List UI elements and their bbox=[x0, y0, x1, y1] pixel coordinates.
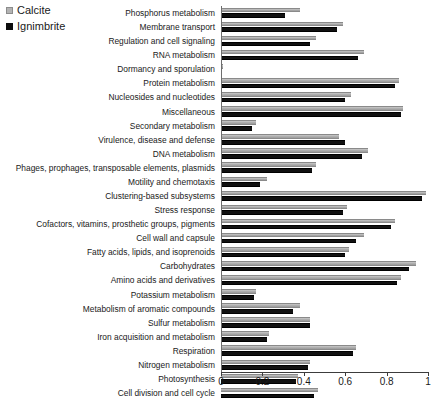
bar-ignimbrite bbox=[221, 253, 345, 258]
bar-ignimbrite bbox=[221, 394, 314, 399]
category-label: Photosynthesis bbox=[3, 372, 217, 386]
bar-group bbox=[221, 358, 433, 372]
bar-ignimbrite bbox=[221, 154, 362, 159]
category-label: Sulfur metabolism bbox=[3, 316, 217, 330]
category-label: Amino acids and derivatives bbox=[3, 273, 217, 287]
bar-group bbox=[221, 316, 433, 330]
bar-calcite bbox=[221, 388, 318, 393]
bar-group bbox=[221, 245, 433, 259]
bar-group bbox=[221, 273, 433, 287]
chart-row: Fatty acids, lipids, and isoprenoids bbox=[0, 245, 433, 259]
category-label: Virulence, disease and defense bbox=[3, 133, 217, 147]
chart-row: RNA metabolism bbox=[0, 48, 433, 62]
bar-ignimbrite bbox=[221, 182, 260, 187]
category-label: Fatty acids, lipids, and isoprenoids bbox=[3, 245, 217, 259]
x-axis-tick-label: 0.2 bbox=[247, 376, 277, 388]
chart-row: Respiration bbox=[0, 344, 433, 358]
bar-calcite bbox=[221, 317, 310, 322]
category-label: Respiration bbox=[3, 344, 217, 358]
bar-calcite bbox=[221, 8, 300, 13]
category-label: Phosphorus metabolism bbox=[3, 6, 217, 20]
chart-row: Nitrogen metabolism bbox=[0, 358, 433, 372]
category-label: RNA metabolism bbox=[3, 48, 217, 62]
bar-group bbox=[221, 302, 433, 316]
chart-row: Miscellaneous bbox=[0, 105, 433, 119]
chart-row: Iron acquisition and metabolism bbox=[0, 330, 433, 344]
y-axis-line bbox=[221, 6, 222, 372]
bar-group bbox=[221, 133, 433, 147]
category-label: Iron acquisition and metabolism bbox=[3, 330, 217, 344]
category-label: Membrane transport bbox=[3, 20, 217, 34]
bar-ignimbrite bbox=[221, 225, 391, 230]
bar-ignimbrite bbox=[221, 196, 422, 201]
category-label: Motility and chemotaxis bbox=[3, 175, 217, 189]
bar-calcite bbox=[221, 261, 416, 266]
chart-row: Phosphorus metabolism bbox=[0, 6, 433, 20]
category-label: Secondary metabolism bbox=[3, 119, 217, 133]
bar-ignimbrite bbox=[221, 351, 353, 356]
bar-calcite bbox=[221, 177, 267, 182]
bar-group bbox=[221, 90, 433, 104]
bar-calcite bbox=[221, 345, 356, 350]
plot-area: Phosphorus metabolismMembrane transportR… bbox=[0, 6, 433, 372]
chart-row: Regulation and cell signaling bbox=[0, 34, 433, 48]
chart-row: Protein metabolism bbox=[0, 76, 433, 90]
chart-row: Amino acids and derivatives bbox=[0, 273, 433, 287]
x-axis-tick-label: 0.8 bbox=[372, 376, 402, 388]
category-label: Carbohydrates bbox=[3, 259, 217, 273]
bar-calcite bbox=[221, 247, 349, 252]
x-axis-tick-label: 0 bbox=[206, 376, 236, 388]
bar-ignimbrite bbox=[221, 126, 252, 131]
bar-calcite bbox=[221, 120, 256, 125]
bar-ignimbrite bbox=[221, 210, 343, 215]
category-label: Stress response bbox=[3, 203, 217, 217]
category-label: Cell division and cell cycle bbox=[3, 386, 217, 400]
subsystem-abundance-bar-chart: Calcite Ignimbrite Phosphorus metabolism… bbox=[0, 0, 433, 400]
bar-ignimbrite bbox=[221, 295, 254, 300]
bar-ignimbrite bbox=[221, 323, 310, 328]
bar-ignimbrite bbox=[221, 267, 409, 272]
bar-ignimbrite bbox=[221, 365, 308, 370]
chart-row: Cell division and cell cycle bbox=[0, 386, 433, 400]
category-label: Cell wall and capsule bbox=[3, 231, 217, 245]
bar-ignimbrite bbox=[221, 309, 293, 314]
x-axis-line bbox=[221, 372, 428, 373]
bar-group bbox=[221, 189, 433, 203]
bar-group bbox=[221, 386, 433, 400]
bar-group bbox=[221, 217, 433, 231]
chart-row: Metabolism of aromatic compounds bbox=[0, 302, 433, 316]
bar-group bbox=[221, 20, 433, 34]
bar-group bbox=[221, 6, 433, 20]
chart-row: Potassium metabolism bbox=[0, 288, 433, 302]
bar-ignimbrite bbox=[221, 27, 337, 32]
bar-calcite bbox=[221, 36, 316, 41]
bar-group bbox=[221, 34, 433, 48]
bar-group bbox=[221, 288, 433, 302]
bar-calcite bbox=[221, 331, 269, 336]
category-label: Nitrogen metabolism bbox=[3, 358, 217, 372]
category-label: Phages, prophages, transposable elements… bbox=[3, 161, 217, 175]
bar-group bbox=[221, 203, 433, 217]
chart-row: Motility and chemotaxis bbox=[0, 175, 433, 189]
category-label: Potassium metabolism bbox=[3, 288, 217, 302]
chart-row: Membrane transport bbox=[0, 20, 433, 34]
bar-group bbox=[221, 62, 433, 76]
bar-ignimbrite bbox=[221, 168, 312, 173]
bar-calcite bbox=[221, 191, 426, 196]
bar-group bbox=[221, 330, 433, 344]
x-axis-tick-label: 1 bbox=[413, 376, 433, 388]
category-label: Miscellaneous bbox=[3, 105, 217, 119]
bar-ignimbrite bbox=[221, 84, 395, 89]
chart-row: Phages, prophages, transposable elements… bbox=[0, 161, 433, 175]
bar-group bbox=[221, 259, 433, 273]
category-label: Dormancy and sporulation bbox=[3, 62, 217, 76]
bar-group bbox=[221, 48, 433, 62]
bar-group bbox=[221, 175, 433, 189]
bar-group bbox=[221, 344, 433, 358]
chart-row: DNA metabolism bbox=[0, 147, 433, 161]
bar-group bbox=[221, 231, 433, 245]
bar-ignimbrite bbox=[221, 13, 285, 18]
bar-ignimbrite bbox=[221, 56, 358, 61]
chart-row: Carbohydrates bbox=[0, 259, 433, 273]
bar-calcite bbox=[221, 50, 364, 55]
